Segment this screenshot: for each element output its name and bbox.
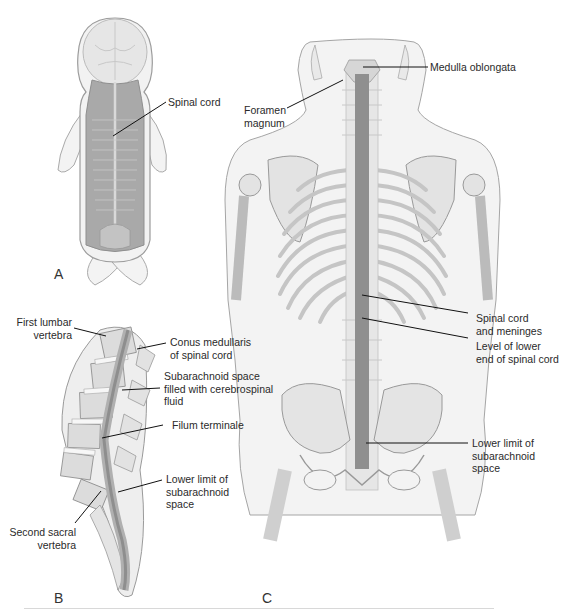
label-spinal-cord-meninges: Spinal cord and meninges bbox=[476, 312, 542, 337]
panel-label-c: C bbox=[262, 590, 272, 606]
label-spinal-cord-embryo: Spinal cord bbox=[168, 96, 221, 109]
label-lower-limit-subarachnoid-c: Lower limit of subarachnoid space bbox=[472, 437, 535, 475]
label-lower-limit-subarachnoid-b: Lower limit of subarachnoid space bbox=[166, 473, 229, 511]
label-medulla-oblongata: Medulla oblongata bbox=[430, 61, 516, 74]
label-first-lumbar-vertebra: First lumbar vertebra bbox=[12, 316, 72, 341]
label-subarachnoid-space-csf: Subarachnoid space filled with cerebrosp… bbox=[164, 370, 273, 408]
panel-label-a: A bbox=[54, 266, 63, 282]
label-level-lower-end-cord: Level of lower end of spinal cord bbox=[476, 340, 559, 365]
bottom-divider bbox=[24, 608, 494, 609]
label-second-sacral-vertebra: Second sacral vertebra bbox=[4, 526, 76, 551]
anatomy-figure bbox=[0, 0, 572, 615]
label-conus-medullaris: Conus medullaris of spinal cord bbox=[170, 336, 251, 361]
panel-b-sagittal bbox=[60, 327, 166, 597]
label-foramen-magnum: Foramen magnum bbox=[244, 104, 286, 129]
panel-a-embryo bbox=[58, 18, 167, 285]
panel-label-b: B bbox=[54, 590, 63, 606]
label-filum-terminale: Filum terminale bbox=[172, 419, 244, 432]
